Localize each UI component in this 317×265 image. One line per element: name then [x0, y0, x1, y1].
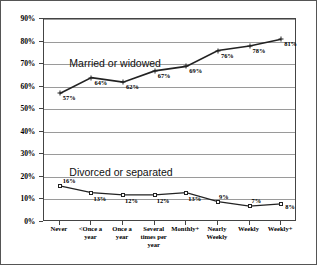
plot-area: 57%64%62%67%69%76%78%81%16%13%12%12%13%9… [43, 18, 296, 221]
data-point-label: 81% [284, 40, 297, 47]
x-axis-tick-label: Weekly [238, 225, 259, 233]
data-point-marker [216, 200, 220, 204]
x-axis-tick-label: Never [50, 225, 67, 233]
data-point-marker [121, 80, 126, 85]
data-point-marker [58, 184, 62, 188]
data-point-marker [184, 64, 189, 69]
data-point-label: 13% [93, 195, 106, 202]
data-point-marker [248, 204, 252, 208]
data-point-label: 67% [158, 72, 171, 79]
x-axis-tick-label: Monthly+ [171, 225, 199, 233]
y-axis-tick-label: 50% [21, 104, 35, 113]
data-point-marker [89, 75, 94, 80]
y-axis-tick-label: 20% [21, 171, 35, 180]
x-axis-tick-label: Several times per year [141, 225, 167, 249]
x-axis-tick-label: Weekly+ [268, 225, 293, 233]
data-point-marker [57, 91, 62, 96]
data-point-label: 7% [252, 197, 262, 204]
x-axis-tick-label: Nearly Weekly [206, 225, 227, 241]
x-axis-tick-label: Once a year [112, 225, 132, 241]
y-axis-tick-label: 0% [24, 217, 35, 226]
x-axis-tick-label: <Once a year [79, 225, 102, 241]
y-axis-tick-label: 70% [21, 59, 35, 68]
y-axis-tick-mark [39, 221, 43, 222]
data-point-marker [215, 48, 220, 53]
y-axis-tick-label: 80% [21, 36, 35, 45]
data-point-label: 9% [219, 193, 229, 200]
data-point-label: 12% [125, 197, 138, 204]
data-point-label: 62% [126, 83, 139, 90]
data-point-label: 12% [157, 197, 170, 204]
y-axis-tick-label: 40% [21, 126, 35, 135]
chart-figure: 0%10%20%30%40%50%60%70%80%90% Never<Once… [0, 0, 317, 265]
data-point-label: 78% [253, 47, 266, 54]
series-annotation: Divorced or separated [69, 166, 172, 178]
data-point-label: 64% [94, 79, 107, 86]
data-point-label: 76% [221, 52, 234, 59]
data-point-marker [279, 37, 284, 42]
y-axis-tick-label: 90% [21, 14, 35, 23]
y-axis-tick-label: 60% [21, 81, 35, 90]
data-point-label: 8% [285, 203, 295, 210]
data-point-label: 69% [189, 67, 202, 74]
data-point-label: 57% [63, 94, 76, 101]
y-axis-tick-label: 10% [21, 194, 35, 203]
series-annotation: Married or widowed [69, 57, 161, 69]
data-point-label: 16% [63, 177, 76, 184]
y-axis-tick-label: 30% [21, 149, 35, 158]
data-point-label: 13% [188, 195, 201, 202]
data-point-marker [279, 202, 283, 206]
data-point-marker [247, 44, 252, 49]
